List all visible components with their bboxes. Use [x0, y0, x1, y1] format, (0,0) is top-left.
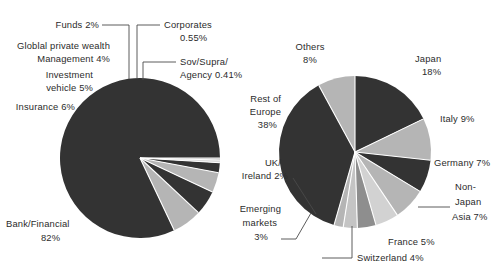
label-global-private-wealth-line2: Management 4% — [37, 53, 110, 64]
label-rest-of-europe-line3: 38% — [258, 119, 277, 130]
label-rest-of-europe-line1: Rest of — [250, 93, 281, 104]
label-germany: Germany 7% — [434, 157, 490, 168]
label-japan-line2: 18% — [422, 66, 441, 77]
label-uk-ireland-line1: UK/ — [265, 157, 281, 168]
label-investment-vehicle-line2: vehicle 5% — [46, 82, 93, 93]
pie-chart-figure: Funds 2% Corporates 0.55% Globlal privat… — [0, 0, 503, 268]
investor-type-pie — [60, 78, 220, 238]
label-non-japan-asia-line2: Japan — [455, 196, 481, 207]
label-global-private-wealth-line1: Globlal private wealth — [17, 40, 110, 51]
label-others-line2: 8% — [303, 54, 317, 65]
label-emerging-markets-line3: 3% — [254, 231, 268, 242]
label-bank-financial-line2: 82% — [41, 232, 60, 243]
geography-pie — [279, 76, 431, 228]
label-rest-of-europe-line2: Europe — [250, 106, 281, 117]
label-corporates-line1: Corporates — [164, 19, 212, 30]
label-switzerland: Switzerland 4% — [357, 252, 424, 263]
label-others-line1: Others — [295, 41, 324, 52]
label-italy: Italy 9% — [440, 113, 475, 124]
label-insurance: Insurance 6% — [16, 101, 75, 112]
label-bank-financial-line1: Bank/Financial — [6, 218, 70, 229]
label-japan-line1: Japan — [415, 53, 441, 64]
label-sov-supra-agency-line1: Sov/Supra/ — [180, 56, 228, 67]
label-investment-vehicle-line1: Investment — [46, 69, 94, 80]
label-uk-ireland-line2: Ireland 2% — [242, 170, 288, 181]
label-france: France 5% — [388, 236, 435, 247]
label-funds: Funds 2% — [56, 19, 99, 30]
label-non-japan-asia-line3: Asia 7% — [452, 211, 487, 222]
charts-svg: Funds 2% Corporates 0.55% Globlal privat… — [0, 0, 503, 268]
label-non-japan-asia-line1: Non- — [455, 181, 476, 192]
label-sov-supra-agency-line2: Agency 0.41% — [180, 69, 242, 80]
label-emerging-markets-line2: markets — [243, 217, 278, 228]
label-emerging-markets-line1: Emerging — [240, 203, 281, 214]
label-corporates-line2: 0.55% — [180, 32, 207, 43]
